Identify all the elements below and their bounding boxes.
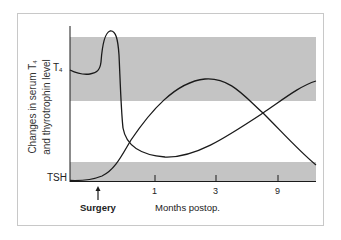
x-tick-label-9: 9 <box>275 187 280 196</box>
y-axis-label: Changes in serum T4 and thyrotrophin lev… <box>27 52 52 162</box>
tsh-normal-band <box>70 162 316 181</box>
surgery-arrow-icon <box>96 186 101 191</box>
y-axis-label-line2: and thyrotrophin level <box>41 52 52 162</box>
y-axis-label-line1: Changes in serum T <box>27 64 38 154</box>
t4-marker-subscript: 4 <box>59 67 62 73</box>
surgery-annotation: Surgery <box>80 203 116 213</box>
x-tick-label-3: 3 <box>213 187 218 196</box>
x-tick-label-1: 1 <box>152 187 157 196</box>
y-axis-label-subscript: 4 <box>32 60 38 63</box>
t4-marker-label: T4 <box>53 63 62 73</box>
t4-normal-band <box>70 37 316 101</box>
x-axis-label: Months postop. <box>155 203 220 213</box>
tsh-marker-label: TSH <box>47 173 67 183</box>
